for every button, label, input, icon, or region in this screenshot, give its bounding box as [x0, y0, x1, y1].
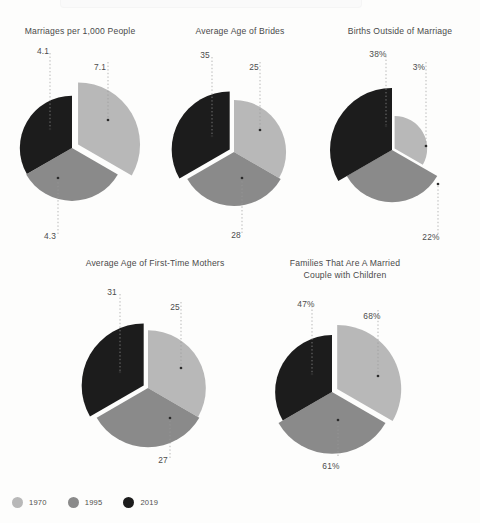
value-label-2019: 47% — [297, 299, 314, 309]
legend-swatch-icon — [12, 497, 23, 508]
leader-dot — [169, 417, 172, 420]
pie-svg — [320, 26, 480, 251]
panel-mothers: Average Age of First-Time Mothers 31 25 … — [60, 258, 250, 478]
value-label-1970: 68% — [363, 311, 380, 321]
value-label-1995: 27 — [158, 455, 168, 465]
value-label-1970: 25 — [249, 62, 259, 72]
leader-dot — [311, 373, 314, 376]
leader-dot — [241, 177, 244, 180]
leader-dot — [119, 371, 122, 374]
leader-dot — [259, 129, 262, 132]
infographic-page: Marriages per 1,000 People 4.1 7.1 4.3 A… — [0, 0, 480, 523]
value-label-1995: 4.3 — [44, 231, 56, 241]
pie-svg — [250, 258, 440, 478]
value-label-1970: 4.1 — [37, 46, 49, 56]
value-label-1995: 22% — [422, 232, 439, 242]
value-label-1995: 61% — [322, 461, 339, 471]
pie-chart-families — [250, 258, 440, 478]
leader-dot — [57, 177, 60, 180]
leader-dot — [425, 145, 428, 148]
legend: 1970 1995 2019 — [12, 497, 179, 508]
leader-dot — [437, 183, 440, 186]
panel-marriages: Marriages per 1,000 People 4.1 7.1 4.3 — [0, 26, 160, 251]
pie-chart-mothers — [60, 258, 250, 478]
legend-item-2019: 2019 — [123, 497, 158, 508]
value-label-2019: 38% — [369, 49, 386, 59]
panel-brides: Average Age of Brides 35 25 28 — [160, 26, 320, 251]
pie-svg — [160, 26, 320, 251]
leader-dot — [211, 135, 214, 138]
leader-dot — [385, 125, 388, 128]
value-label-2019: 31 — [107, 287, 117, 297]
legend-label: 1995 — [85, 498, 103, 507]
legend-item-1995: 1995 — [68, 497, 103, 508]
leader-dot — [180, 367, 183, 370]
legend-label: 2019 — [140, 498, 158, 507]
leader-dot — [107, 119, 110, 122]
value-label-2019: 35 — [200, 50, 210, 60]
value-label-1995: 28 — [231, 230, 241, 240]
legend-label: 1970 — [29, 498, 47, 507]
value-label-2019: 7.1 — [94, 62, 106, 72]
leader-dot — [337, 419, 340, 422]
pie-svg — [0, 26, 160, 251]
pie-svg — [60, 258, 250, 478]
pie-chart-marriages — [0, 26, 160, 251]
scan-artifact — [60, 0, 362, 8]
leader-dot — [49, 128, 52, 131]
panel-families: Families That Are A Married Couple with … — [250, 258, 440, 478]
legend-item-1970: 1970 — [12, 497, 47, 508]
legend-swatch-icon — [123, 497, 134, 508]
value-label-1970: 25 — [170, 302, 180, 312]
value-label-1970: 3% — [413, 62, 426, 72]
pie-chart-births — [320, 26, 480, 251]
pie-chart-brides — [160, 26, 320, 251]
legend-swatch-icon — [68, 497, 79, 508]
leader-dot — [377, 375, 380, 378]
panel-births: Births Outside of Marriage 38% 3% 22% — [320, 26, 480, 251]
